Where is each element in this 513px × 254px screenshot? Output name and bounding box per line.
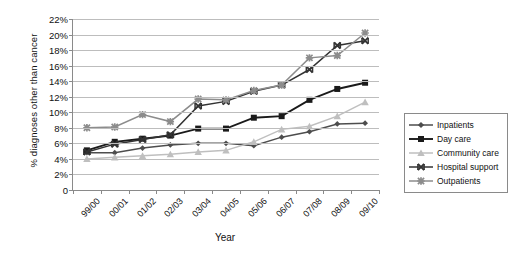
- data-point: [250, 87, 257, 94]
- chart-container: % diagnoses other than cancer 02%4%6%8%1…: [0, 0, 513, 254]
- data-point: [279, 113, 285, 119]
- y-axis-title: % diagnoses other than cancer: [28, 16, 39, 186]
- y-tick-mark: [69, 128, 73, 129]
- plot-area: 02%4%6%8%10%12%14%16%18%20%22%99/0000/01…: [72, 19, 379, 191]
- y-tick-label: 0: [63, 185, 68, 196]
- x-tick-label: 08/09: [329, 196, 352, 219]
- y-tick-label: 6%: [54, 138, 68, 149]
- y-tick-label: 22%: [49, 14, 68, 25]
- x-tick-label: 05/06: [246, 196, 269, 219]
- x-tick-mark: [212, 190, 213, 194]
- y-tick-mark: [69, 159, 73, 160]
- x-tick-mark: [129, 190, 130, 194]
- legend-marker-triangle-icon: [408, 147, 434, 159]
- data-point: [334, 113, 341, 120]
- x-tick-mark: [156, 190, 157, 194]
- y-tick-label: 12%: [49, 91, 68, 102]
- gridline: [73, 112, 379, 113]
- legend-label: Inpatients: [437, 120, 474, 130]
- x-tick-label: 00/01: [107, 196, 130, 219]
- x-tick-label: 02/03: [162, 196, 185, 219]
- legend-label: Outpatients: [437, 176, 480, 186]
- data-point: [362, 120, 368, 126]
- y-tick-mark: [69, 174, 73, 175]
- series-line: [87, 83, 365, 151]
- y-tick-mark: [69, 112, 73, 113]
- legend-marker-square-icon: [408, 133, 434, 145]
- y-tick-label: 8%: [54, 122, 68, 133]
- x-tick-label: 06/07: [274, 196, 297, 219]
- data-point: [361, 99, 368, 106]
- legend-label: Hospital support: [437, 162, 498, 172]
- data-point: [334, 86, 340, 92]
- legend-item-outpatients[interactable]: Outpatients: [408, 174, 503, 188]
- gridline: [73, 159, 379, 160]
- gridline: [73, 97, 379, 98]
- legend-item-day-care[interactable]: Day care: [408, 132, 503, 146]
- gridline: [73, 35, 379, 36]
- legend-label: Day care: [437, 134, 471, 144]
- y-tick-label: 20%: [49, 29, 68, 40]
- x-tick-label: 99/00: [79, 196, 102, 219]
- x-tick-mark: [296, 190, 297, 194]
- y-tick-label: 18%: [49, 45, 68, 56]
- x-tick-mark: [73, 190, 74, 194]
- gridline: [73, 143, 379, 144]
- data-point: [334, 52, 341, 59]
- y-tick-mark: [69, 81, 73, 82]
- legend-marker-diamond-icon: [408, 119, 434, 131]
- x-tick-mark: [184, 190, 185, 194]
- data-point: [306, 54, 313, 61]
- x-tick-mark: [379, 190, 380, 194]
- y-tick-mark: [69, 35, 73, 36]
- data-point: [167, 118, 174, 125]
- x-tick-mark: [101, 190, 102, 194]
- y-tick-mark: [69, 143, 73, 144]
- y-tick-mark: [69, 97, 73, 98]
- x-axis-title: Year: [72, 232, 378, 243]
- x-tick-label: 09/10: [357, 196, 380, 219]
- x-tick-mark: [323, 190, 324, 194]
- legend-marker-star-icon: [408, 175, 434, 187]
- data-point: [278, 81, 285, 88]
- legend-marker-x-icon: [408, 161, 434, 173]
- data-point: [307, 129, 313, 135]
- series-layer: [73, 19, 379, 190]
- gridline: [73, 174, 379, 175]
- y-tick-mark: [69, 19, 73, 20]
- legend-label: Community care: [437, 148, 499, 158]
- y-tick-mark: [69, 50, 73, 51]
- gridline: [73, 81, 379, 82]
- data-point: [306, 66, 312, 72]
- x-tick-mark: [240, 190, 241, 194]
- data-point: [306, 97, 312, 103]
- x-tick-label: 01/02: [135, 196, 158, 219]
- x-tick-label: 04/05: [218, 196, 241, 219]
- gridline: [73, 19, 379, 20]
- legend-item-inpatients[interactable]: Inpatients: [408, 118, 503, 132]
- x-tick-label: 07/08: [302, 196, 325, 219]
- y-tick-label: 14%: [49, 76, 68, 87]
- data-point: [361, 29, 368, 36]
- legend-item-community-care[interactable]: Community care: [408, 146, 503, 160]
- y-tick-label: 16%: [49, 60, 68, 71]
- gridline: [73, 50, 379, 51]
- y-tick-mark: [69, 66, 73, 67]
- data-point: [251, 115, 257, 121]
- y-tick-label: 2%: [54, 169, 68, 180]
- data-point: [140, 145, 146, 151]
- data-point: [334, 121, 340, 127]
- gridline: [73, 66, 379, 67]
- x-tick-label: 03/04: [190, 196, 213, 219]
- legend-item-hospital-support[interactable]: Hospital support: [408, 160, 503, 174]
- gridline: [73, 128, 379, 129]
- x-tick-mark: [268, 190, 269, 194]
- y-tick-label: 4%: [54, 153, 68, 164]
- y-tick-label: 10%: [49, 107, 68, 118]
- data-point: [279, 134, 285, 140]
- x-tick-mark: [351, 190, 352, 194]
- legend: InpatientsDay careCommunity careHospital…: [404, 113, 508, 193]
